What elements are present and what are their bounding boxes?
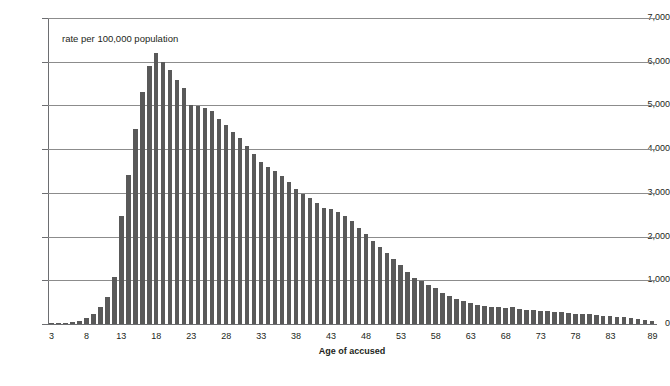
bar-cell: [446, 18, 453, 324]
bar[interactable]: [343, 216, 347, 324]
bar[interactable]: [538, 311, 542, 324]
bar-cell: [230, 18, 237, 324]
bar[interactable]: [147, 66, 151, 324]
bar[interactable]: [636, 319, 640, 324]
bar-cell: [614, 18, 621, 324]
bar[interactable]: [77, 321, 81, 324]
bar[interactable]: [385, 253, 389, 324]
bar[interactable]: [524, 310, 528, 324]
bar[interactable]: [371, 241, 375, 324]
bar[interactable]: [217, 119, 221, 324]
bar[interactable]: [433, 288, 437, 324]
bar[interactable]: [287, 182, 291, 325]
bar[interactable]: [391, 259, 395, 324]
x-axis-tick-label: 38: [291, 330, 301, 342]
bar-cell: [600, 18, 607, 324]
bar[interactable]: [119, 216, 123, 324]
bar[interactable]: [419, 281, 423, 324]
bar[interactable]: [231, 132, 235, 324]
bar[interactable]: [587, 314, 591, 324]
bar[interactable]: [447, 296, 451, 324]
bar[interactable]: [329, 209, 333, 324]
bar[interactable]: [545, 311, 549, 324]
bar-cell: [495, 18, 502, 324]
bar[interactable]: [112, 277, 116, 324]
bar[interactable]: [440, 293, 444, 324]
bar[interactable]: [622, 317, 626, 324]
bar[interactable]: [594, 315, 598, 324]
bar[interactable]: [489, 307, 493, 324]
bar[interactable]: [168, 70, 172, 324]
bar[interactable]: [364, 234, 368, 324]
bar[interactable]: [154, 53, 158, 324]
bar[interactable]: [56, 323, 60, 324]
bar[interactable]: [454, 299, 458, 324]
bar[interactable]: [294, 189, 298, 325]
bar[interactable]: [552, 312, 556, 324]
bar[interactable]: [266, 167, 270, 324]
bar[interactable]: [84, 318, 88, 324]
bar[interactable]: [615, 317, 619, 324]
bar-cell: [390, 18, 397, 324]
bar[interactable]: [315, 203, 319, 324]
bar[interactable]: [412, 278, 416, 324]
x-axis-line: [48, 324, 657, 325]
bar[interactable]: [573, 314, 577, 324]
bar[interactable]: [189, 105, 193, 324]
bar[interactable]: [531, 310, 535, 324]
bar[interactable]: [357, 228, 361, 324]
bar[interactable]: [405, 272, 409, 324]
x-axis-tick-label: 83: [606, 330, 616, 342]
bar[interactable]: [608, 316, 612, 324]
bar[interactable]: [517, 309, 521, 324]
bar[interactable]: [105, 297, 109, 324]
bar[interactable]: [461, 301, 465, 324]
x-axis-tick-label: 43: [326, 330, 336, 342]
bar[interactable]: [182, 88, 186, 324]
bar[interactable]: [196, 106, 200, 324]
bar-cell: [97, 18, 104, 324]
bar[interactable]: [210, 111, 214, 324]
bar[interactable]: [63, 323, 67, 324]
bar[interactable]: [98, 307, 102, 324]
bar[interactable]: [468, 303, 472, 324]
bar[interactable]: [398, 265, 402, 324]
bar[interactable]: [650, 321, 654, 324]
bar[interactable]: [259, 162, 263, 324]
bar[interactable]: [70, 322, 74, 324]
bar[interactable]: [475, 305, 479, 324]
bar[interactable]: [350, 221, 354, 324]
bar[interactable]: [629, 318, 633, 324]
bar[interactable]: [322, 208, 326, 324]
bar[interactable]: [245, 146, 249, 324]
bar[interactable]: [203, 108, 207, 324]
bar[interactable]: [336, 212, 340, 324]
bar[interactable]: [140, 92, 144, 324]
bar[interactable]: [126, 175, 130, 324]
bar[interactable]: [161, 62, 165, 324]
bar[interactable]: [238, 138, 242, 324]
bar[interactable]: [273, 171, 277, 324]
bar[interactable]: [252, 154, 256, 324]
bar[interactable]: [566, 313, 570, 324]
bar[interactable]: [426, 285, 430, 324]
bar[interactable]: [559, 312, 563, 324]
bar[interactable]: [496, 307, 500, 324]
bar[interactable]: [280, 176, 284, 324]
bar-cell: [334, 18, 341, 324]
bar[interactable]: [643, 320, 647, 324]
bar[interactable]: [133, 129, 137, 324]
bar[interactable]: [49, 323, 53, 324]
bar-cell: [432, 18, 439, 324]
bar[interactable]: [308, 198, 312, 324]
bar[interactable]: [301, 194, 305, 324]
bar[interactable]: [91, 314, 95, 324]
bar[interactable]: [601, 316, 605, 324]
bar[interactable]: [510, 307, 514, 324]
bar[interactable]: [378, 247, 382, 324]
bar[interactable]: [503, 308, 507, 324]
bar[interactable]: [224, 125, 228, 324]
bar[interactable]: [175, 80, 179, 324]
bar[interactable]: [580, 314, 584, 324]
bar[interactable]: [482, 306, 486, 324]
